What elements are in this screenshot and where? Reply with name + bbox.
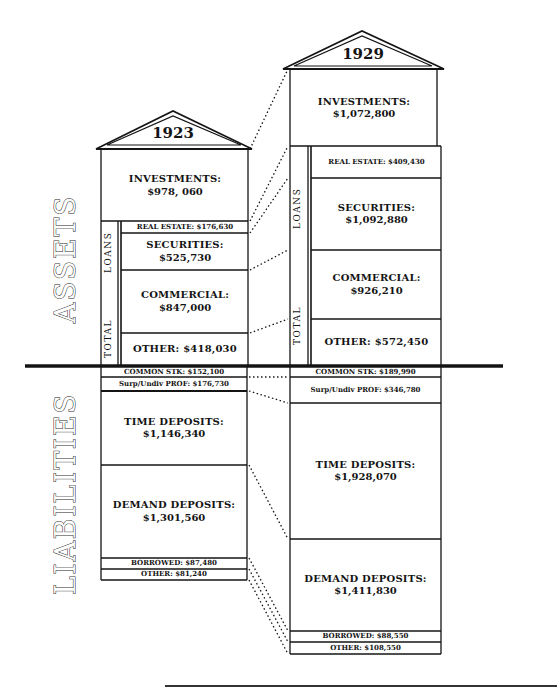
asset-value: $1,092,880: [345, 214, 408, 227]
diagram-lines: [0, 0, 557, 692]
total-label-1923: TOTAL: [103, 318, 117, 360]
asset-value: $1,072,800: [333, 108, 396, 121]
liability-value: $1,146,340: [143, 428, 206, 441]
liability-surplus-1929: Surp/Undiv PROF: $346,780: [290, 377, 441, 403]
liability-value: $1,928,070: [334, 471, 397, 484]
liability-time-deposits-1929: TIME DEPOSITS: $1,928,070: [290, 403, 441, 539]
year-label-1923: 1923: [140, 124, 206, 142]
liability-demand-deposits-1923: DEMAND DEPOSITS: $1,301,560: [101, 465, 247, 558]
asset-other-1923: OTHER: $418,030: [122, 333, 248, 366]
liability-borrowed-1929: BORROWED: $88,550: [290, 631, 441, 642]
loans-label-1923: LOANS: [103, 230, 117, 275]
liability-label: DEMAND DEPOSITS:: [304, 573, 426, 586]
liability-value: $1,411,830: [334, 585, 397, 598]
liability-common-stock-1923: COMMON STK: $152,100: [101, 367, 247, 377]
asset-securities-1929: SECURITIES: $1,092,880: [312, 178, 441, 250]
asset-other-1929: OTHER: $572,450: [312, 319, 441, 366]
asset-commercial-1923: COMMERCIAL: $847,000: [122, 270, 248, 333]
assets-side-label: ASSETS: [49, 203, 82, 323]
asset-securities-1923: SECURITIES: $525,730: [122, 233, 248, 270]
liability-label: DEMAND DEPOSITS:: [113, 499, 235, 512]
asset-label: INVESTMENTS:: [129, 173, 221, 186]
liability-label: TIME DEPOSITS:: [316, 459, 416, 472]
asset-label: COMMERCIAL:: [332, 272, 420, 285]
liability-other-1923: OTHER: $81,240: [101, 569, 247, 580]
asset-commercial-1929: COMMERCIAL: $926,210: [312, 250, 441, 319]
asset-label: COMMERCIAL:: [141, 289, 229, 302]
asset-label: SECURITIES:: [338, 202, 415, 215]
liability-other-1929: OTHER: $108,550: [290, 642, 441, 654]
asset-real-estate-1929: REAL ESTATE: $409,430: [312, 146, 441, 178]
liability-time-deposits-1923: TIME DEPOSITS: $1,146,340: [101, 391, 247, 465]
liabilities-side-label: LIABILITIES: [49, 415, 82, 595]
asset-investments-1923: INVESTMENTS: $978, 060: [102, 150, 248, 221]
loans-label-1929: LOANS: [292, 186, 306, 231]
asset-label: INVESTMENTS:: [318, 96, 410, 109]
liability-label: TIME DEPOSITS:: [124, 416, 224, 429]
liability-surplus-1923: Surp/Undiv PROF: $176,730: [101, 377, 247, 391]
dotted-connectors: [249, 69, 288, 654]
liability-value: $1,301,560: [143, 512, 206, 525]
asset-investments-1929: INVESTMENTS: $1,072,800: [291, 70, 437, 146]
asset-value: $525,730: [159, 252, 211, 265]
asset-real-estate-1923: REAL ESTATE: $176,630: [122, 221, 248, 233]
year-label-1929: 1929: [330, 45, 396, 63]
asset-value: $926,210: [350, 285, 402, 298]
liability-borrowed-1923: BORROWED: $87,480: [101, 558, 247, 569]
liability-demand-deposits-1929: DEMAND DEPOSITS: $1,411,830: [290, 539, 441, 631]
asset-value: $978, 060: [147, 186, 203, 199]
liability-common-stock-1929: COMMON STK: $189,990: [290, 367, 441, 377]
asset-value: $847,000: [159, 302, 211, 315]
asset-label: SECURITIES:: [146, 239, 223, 252]
total-label-1929: TOTAL: [292, 305, 306, 347]
